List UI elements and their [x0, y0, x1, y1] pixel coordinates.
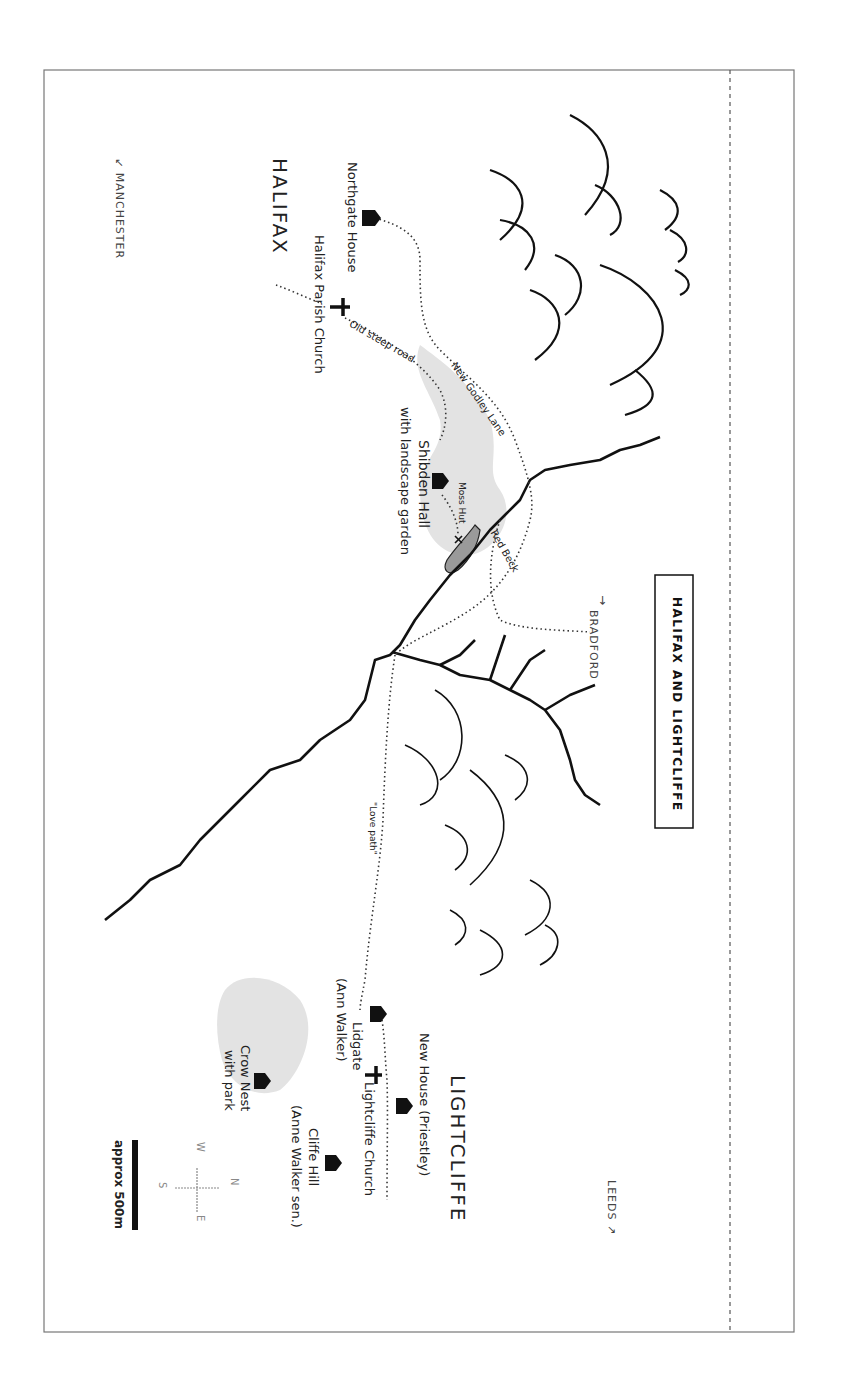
- town-label-halifax: HALIFAX: [268, 158, 292, 255]
- map-title: HALIFAX AND LIGHTCLIFFE: [670, 597, 684, 812]
- direction-manchester: ↙ MANCHESTER: [113, 158, 126, 259]
- house-icon-cliffe-hill: [325, 1155, 342, 1171]
- compass-icon: [175, 1168, 220, 1212]
- place-shibden-hall: Shibden Hall: [416, 440, 432, 528]
- direction-bradford-arrow: →: [596, 595, 610, 605]
- place-new-house: New House (Priestley): [417, 1033, 432, 1176]
- hills-south: [405, 690, 558, 975]
- house-icon-lidgate: [370, 1006, 387, 1022]
- direction-bradford: BRADFORD: [587, 610, 600, 680]
- compass-e: E: [195, 1215, 206, 1221]
- church-icons: [330, 298, 382, 1084]
- route-love-path: "Love path": [368, 802, 378, 855]
- scale-label: approx 500m: [112, 1140, 126, 1229]
- house-icon-new-house: [396, 1098, 413, 1114]
- town-label-lightcliffe: LIGHTCLIFFE: [446, 1075, 470, 1222]
- place-cliffe-hill-sub: (Anne Walker sen.): [289, 1105, 304, 1228]
- house-icon-northgate: [362, 210, 381, 226]
- place-crow-nest-sub: with park: [222, 1050, 237, 1111]
- map-canvas: HALIFAX AND LIGHTCLIFFE HALIFAX LIGHTCLI…: [0, 0, 843, 1389]
- compass-n: N: [229, 1178, 240, 1185]
- place-lidgate: Lidgate: [350, 1022, 365, 1070]
- scale-bar: [132, 1140, 138, 1230]
- place-moss-hut: Moss Hut: [457, 482, 467, 524]
- place-cliffe-hill: Cliffe Hill: [306, 1128, 321, 1186]
- place-shibden-hall-sub: with landscape garden: [398, 407, 413, 555]
- compass-s: S: [157, 1182, 168, 1188]
- place-halifax-parish-church: Halifax Parish Church: [312, 235, 327, 374]
- place-lightcliffe-church: Lightcliffe Church: [362, 1082, 377, 1196]
- hills-north: [490, 115, 689, 415]
- compass-w: W: [195, 1142, 206, 1152]
- place-northgate-house: Northgate House: [345, 162, 360, 273]
- direction-leeds: LEEDS ↗: [605, 1180, 618, 1235]
- place-lidgate-sub: (Ann Walker): [334, 978, 349, 1062]
- place-crow-nest: Crow Nest: [238, 1045, 253, 1111]
- rivers: [105, 437, 660, 920]
- map-graphics: [0, 0, 843, 1389]
